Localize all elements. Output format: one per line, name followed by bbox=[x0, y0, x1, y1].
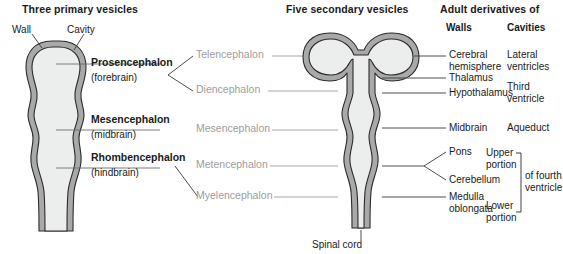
wall-cerebral-hemisphere-line1: Cerebral bbox=[449, 49, 487, 60]
fourth-ventricle-brace bbox=[516, 153, 521, 212]
label-prosencephalon-common: (forebrain) bbox=[91, 72, 137, 83]
cavity-lower-portion-line2: portion bbox=[486, 212, 517, 223]
header-cavities: Cavities bbox=[507, 22, 545, 33]
cavity-upper-portion-line2: portion bbox=[486, 159, 517, 170]
header-five-secondary-vesicles: Five secondary vesicles bbox=[286, 4, 409, 16]
cavity-lateral-ventricles-line2: ventricles bbox=[507, 61, 549, 72]
diagram-canvas: Three primary vesicles Five secondary ve… bbox=[0, 0, 563, 254]
callout-cavity: Cavity bbox=[67, 24, 95, 35]
label-mesencephalon: Mesencephalon bbox=[91, 114, 170, 126]
label-rhombencephalon: Rhombencephalon bbox=[91, 152, 186, 164]
label-rhombencephalon-common: (hindbrain) bbox=[91, 167, 139, 178]
callout-wall: Wall bbox=[12, 24, 31, 35]
leader-pons bbox=[424, 152, 446, 166]
wall-medulla-line1: Medulla bbox=[449, 191, 484, 202]
label-telencephalon: Telencephalon bbox=[196, 49, 264, 61]
cavity-aqueduct: Aqueduct bbox=[507, 122, 549, 133]
wall-pons: Pons bbox=[449, 146, 472, 157]
label-of-fourth-ventricle: of fourth ventricle bbox=[525, 170, 563, 193]
leader-cerebellum bbox=[424, 166, 446, 180]
cavity-third-ventricle-line1: Third bbox=[507, 81, 530, 92]
secondary-vesicle-cavity bbox=[309, 39, 413, 228]
cavity-upper-portion-line1: Upper bbox=[486, 147, 513, 158]
label-myelencephalon: Myelencephalon bbox=[196, 190, 272, 202]
label-mesencephalon-common: (midbrain) bbox=[91, 129, 136, 140]
header-walls: Walls bbox=[446, 22, 472, 33]
wall-thalamus: Thalamus bbox=[449, 72, 493, 83]
label-metencephalon: Metencephalon bbox=[196, 159, 268, 171]
wall-cerebellum: Cerebellum bbox=[449, 174, 500, 185]
wall-midbrain: Midbrain bbox=[449, 122, 487, 133]
vesicle-branch-lines bbox=[168, 56, 198, 197]
wall-cerebral-hemisphere-line2: hemisphere bbox=[449, 61, 501, 72]
branch-diencephalon bbox=[168, 75, 193, 91]
cavity-lateral-ventricles-line1: Lateral bbox=[507, 49, 538, 60]
header-three-primary-vesicles: Three primary vesicles bbox=[22, 4, 138, 16]
branch-myelencephalon bbox=[175, 166, 198, 197]
cavity-third-ventricle-line2: ventricle bbox=[507, 93, 544, 104]
label-mesencephalon-secondary: Mesencephalon bbox=[196, 123, 270, 135]
secondary-vesicle-figure bbox=[303, 33, 419, 240]
label-prosencephalon: Prosencephalon bbox=[91, 57, 173, 69]
header-adult-derivatives: Adult derivatives of bbox=[440, 4, 539, 16]
callout-spinal-cord: Spinal cord bbox=[312, 239, 362, 250]
label-diencephalon: Diencephalon bbox=[196, 84, 260, 96]
wall-hypothalamus: Hypothalamus bbox=[449, 87, 513, 98]
cavity-lower-portion-line1: Lower bbox=[486, 200, 513, 211]
